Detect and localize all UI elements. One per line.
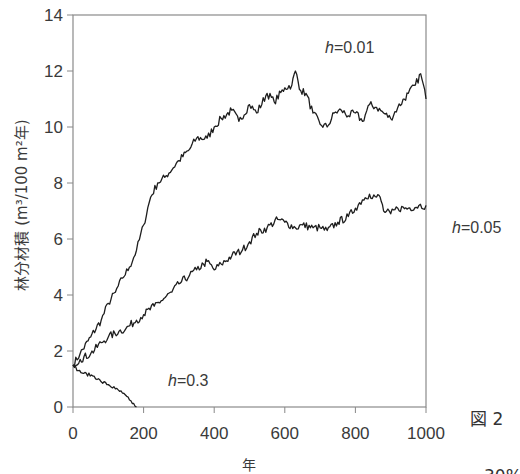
y-axis-ticks: 02468101214 <box>44 6 73 417</box>
x-tick-label: 400 <box>200 424 228 443</box>
y-tick-label: 2 <box>54 342 63 361</box>
series-lines <box>73 71 426 407</box>
x-tick-label: 0 <box>68 424 77 443</box>
x-tick-label: 600 <box>271 424 299 443</box>
y-tick-label: 8 <box>54 174 63 193</box>
y-tick-label: 6 <box>54 230 63 249</box>
plot-frame <box>73 15 426 407</box>
chart-canvas: 02468101214 02004006008001000 h=0.01 h=0… <box>0 0 520 474</box>
annotation-h03: h=0.3 <box>168 372 209 389</box>
plot-area: 02468101214 02004006008001000 <box>44 6 445 443</box>
y-tick-label: 10 <box>44 118 63 137</box>
x-tick-label: 1000 <box>407 424 445 443</box>
y-axis-label: 林分材積 (m³/100 m²年) <box>13 119 31 290</box>
x-tick-label: 200 <box>129 424 157 443</box>
annotation-h001: h=0.01 <box>325 39 374 56</box>
x-axis-ticks: 02004006008001000 <box>68 407 445 443</box>
caption-line-2: 30% <box>470 467 520 474</box>
x-axis-label: 年 <box>242 457 256 473</box>
y-tick-label: 4 <box>54 286 63 305</box>
y-tick-label: 14 <box>44 6 63 25</box>
y-tick-label: 12 <box>44 62 63 81</box>
series-line-h03 <box>73 365 137 407</box>
figure-caption: 図 2 30% 今後 移 <box>470 372 520 474</box>
series-line-h001 <box>73 71 426 367</box>
x-tick-label: 800 <box>341 424 369 443</box>
y-tick-label: 0 <box>54 398 63 417</box>
annotation-h005: h=0.05 <box>452 219 501 236</box>
caption-line-1: 図 2 <box>470 410 520 429</box>
series-line-h005 <box>73 194 426 367</box>
